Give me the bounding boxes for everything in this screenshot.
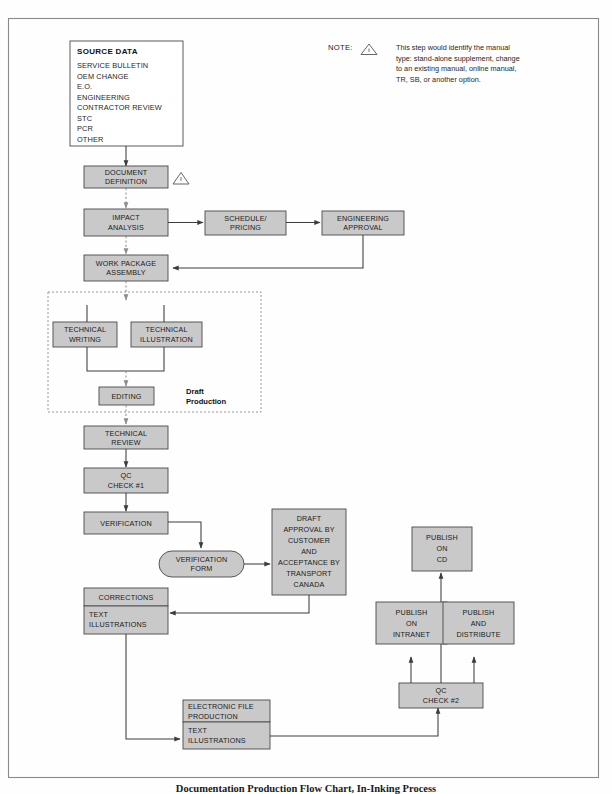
publish-on-cd-line-2: CD — [437, 555, 448, 564]
draft-approval-line-0: DRAFT — [297, 514, 322, 523]
technical-writing-line-0: TECHNICAL — [64, 325, 106, 334]
electronic-file-body-line-0: TEXT — [188, 726, 207, 735]
source-data-item-7: OTHER — [77, 135, 103, 144]
engineering-approval-line-1: APPROVAL — [343, 223, 382, 232]
technical-review-line-0: TECHNICAL — [105, 429, 147, 438]
source-data-item-6: PCR — [77, 124, 93, 133]
technical-review-line-1: REVIEW — [111, 438, 140, 447]
note-line-0: This step would identify the manual — [396, 43, 510, 52]
connector-engineering-approval-to-work-package — [173, 235, 363, 268]
technical-illustration-line-0: TECHNICAL — [145, 325, 187, 334]
publish-on-cd-line-0: PUBLISH — [426, 533, 458, 542]
publish-and-distribute-line-1: AND — [471, 619, 487, 628]
draft-production-label-line-1: Production — [186, 397, 226, 406]
note-label: NOTE: — [328, 43, 353, 52]
qc-check-1-line-1: CHECK #1 — [108, 481, 144, 490]
verification-label: VERIFICATION — [100, 519, 152, 528]
schedule-pricing-line-1: PRICING — [230, 223, 261, 232]
draft-approval-line-4: ACCEPTANCE BY — [278, 558, 340, 567]
connector-verification-to-verification-form — [168, 522, 201, 548]
editing-label: EDITING — [111, 392, 141, 401]
corrections-body-line-0: TEXT — [89, 610, 108, 619]
draft-approval-line-2: CUSTOMER — [288, 536, 330, 545]
engineering-approval-line-0: ENGINEERING — [337, 214, 389, 223]
source-data-item-0: SERVICE BULLETIN — [77, 61, 148, 70]
publish-on-intranet-line-2: INTRANET — [393, 630, 431, 639]
electronic-file-header-line-1: PRODUCTION — [188, 712, 238, 721]
draft-production-label-line-0: Draft — [186, 387, 204, 396]
document-definition-line-1: DEFINITION — [105, 177, 147, 186]
page-canvas: SOURCE DATA SERVICE BULLETIN OEM CHANGE … — [0, 0, 612, 794]
publish-and-distribute-line-0: PUBLISH — [463, 608, 495, 617]
document-definition-line-0: DOCUMENT — [105, 168, 148, 177]
verification-form-line-1: FORM — [191, 564, 213, 573]
publish-on-cd-line-1: ON — [436, 544, 447, 553]
technical-writing-line-1: WRITING — [69, 335, 101, 344]
note-line-3: TR, SB, or another option. — [396, 75, 481, 84]
publish-on-intranet-line-1: ON — [406, 619, 417, 628]
publish-on-intranet-line-0: PUBLISH — [396, 608, 428, 617]
source-data-title: SOURCE DATA — [77, 47, 138, 56]
schedule-pricing-line-0: SCHEDULE/ — [224, 214, 267, 223]
source-data-item-5: STC — [77, 114, 93, 123]
technical-illustration-line-1: ILLUSTRATION — [140, 335, 193, 344]
draft-approval-line-6: CANADA — [294, 580, 325, 589]
corrections-body-line-1: ILLUSTRATIONS — [89, 620, 147, 629]
group-draft-production — [48, 292, 261, 412]
note-line-1: type: stand-alone supplement, change — [396, 54, 520, 63]
verification-form-line-0: VERIFICATION — [176, 555, 228, 564]
qc-check-1-line-0: QC — [120, 471, 131, 480]
connector-electronic-file-to-qc2 — [270, 708, 438, 736]
electronic-file-header-line-0: ELECTRONIC FILE — [188, 702, 254, 711]
electronic-file-body-line-1: ILLUSTRATIONS — [188, 736, 246, 745]
qc-check-2-line-1: CHECK #2 — [423, 696, 459, 705]
publish-and-distribute-line-2: DISTRIBUTE — [456, 630, 500, 639]
impact-analysis-line-0: IMPACT — [112, 213, 140, 222]
corrections-header-label: CORRECTIONS — [99, 593, 154, 602]
source-data-item-4: CONTRACTOR REVIEW — [77, 103, 162, 112]
source-data-item-2: E.O. — [77, 82, 92, 91]
note-line-2: to an existing manual, online manual, — [396, 64, 516, 73]
connector-corrections-to-electronic-file — [126, 634, 180, 739]
figure-caption: Documentation Production Flow Chart, In-… — [176, 783, 436, 794]
work-package-line-1: ASSEMBLY — [106, 268, 145, 277]
qc-check-2-line-0: QC — [435, 686, 446, 695]
draft-approval-line-3: AND — [301, 547, 317, 556]
flowchart-canvas: SOURCE DATA SERVICE BULLETIN OEM CHANGE … — [0, 0, 612, 794]
source-data-item-1: OEM CHANGE — [77, 72, 129, 81]
source-data-item-3: ENGINEERING — [77, 93, 130, 102]
draft-approval-line-5: TRANSPORT — [286, 569, 332, 578]
impact-analysis-line-1: ANALYSIS — [108, 223, 144, 232]
connector-draft-approval-to-corrections — [170, 595, 309, 613]
draft-approval-line-1: APPROVAL BY — [283, 525, 334, 534]
work-package-line-0: WORK PACKAGE — [96, 259, 156, 268]
